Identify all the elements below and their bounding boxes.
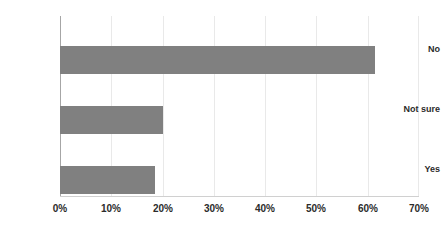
xtick-label-70: 70% bbox=[399, 203, 439, 215]
xtick-label-30: 30% bbox=[194, 203, 234, 215]
xtick-label-0: 0% bbox=[40, 203, 80, 215]
category-label-not-sure: Not sure bbox=[384, 104, 440, 114]
category-label-no: No bbox=[384, 44, 440, 54]
bar-row bbox=[60, 90, 419, 150]
bar-row bbox=[60, 30, 419, 90]
bar-row bbox=[60, 150, 419, 210]
xtick-label-40: 40% bbox=[245, 203, 285, 215]
bar-no bbox=[60, 46, 375, 74]
xtick-label-10: 10% bbox=[91, 203, 131, 215]
plot-area bbox=[60, 16, 419, 196]
xtick-label-50: 50% bbox=[296, 203, 336, 215]
category-label-yes: Yes bbox=[384, 164, 440, 174]
bar-not-sure bbox=[60, 106, 163, 134]
xtick-label-20: 20% bbox=[143, 203, 183, 215]
bar-chart: No Not sure Yes 0% 10% 20% 30% 40% 50% 6… bbox=[0, 0, 448, 230]
bar-yes bbox=[60, 166, 155, 194]
x-axis-baseline bbox=[60, 196, 419, 197]
xtick-label-60: 60% bbox=[348, 203, 388, 215]
